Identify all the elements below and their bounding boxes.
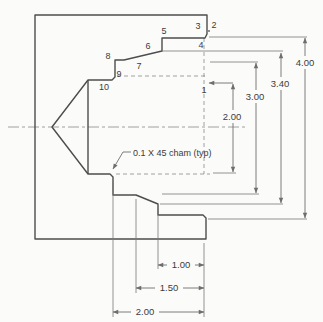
engineering-drawing: 4.00 3.40 3.00 2.00 1.00 1.50 2.00 0.1 X… <box>0 0 323 322</box>
dim-2.00-len-label: 2.00 <box>136 306 155 317</box>
dim-4.00-label: 4.00 <box>296 57 315 68</box>
dim-1.50-label: 1.50 <box>160 282 179 293</box>
diameter-extension-lines <box>160 37 307 219</box>
toolpath-point-labels: 1 2 3 4 5 6 7 8 9 10 <box>99 20 217 95</box>
diameter-dimension-lines <box>209 38 305 218</box>
point-2-label: 2 <box>211 20 216 30</box>
point-4-label: 4 <box>198 40 203 50</box>
dimension-text-masks <box>131 56 319 318</box>
point-1-label: 1 <box>201 85 206 95</box>
point-8-label: 8 <box>105 51 110 61</box>
dim-3.00-label: 3.00 <box>246 91 265 102</box>
dim-2.00-dia-label: 2.00 <box>223 111 242 122</box>
point-10-label: 10 <box>99 82 109 92</box>
dim-1.00-label: 1.00 <box>172 259 191 270</box>
point-3-label: 3 <box>195 21 200 31</box>
point-7-label: 7 <box>136 61 141 71</box>
point-5-label: 5 <box>161 26 166 36</box>
length-extension-lines <box>113 182 204 317</box>
dim-3.40-label: 3.40 <box>271 78 290 89</box>
chamfer-note-leader <box>113 152 131 169</box>
chamfer-note: 0.1 X 45 cham (typ) <box>133 148 212 158</box>
point-9-label: 9 <box>116 69 121 79</box>
drawing-canvas: 4.00 3.40 3.00 2.00 1.00 1.50 2.00 0.1 X… <box>0 0 323 322</box>
part-profile-outline <box>35 15 207 239</box>
point-6-label: 6 <box>145 41 150 51</box>
point-2-dot <box>208 30 210 32</box>
